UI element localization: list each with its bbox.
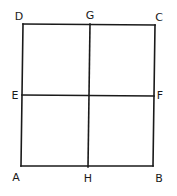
side-DC-line bbox=[23, 24, 155, 25]
midline-EF-line bbox=[22, 95, 154, 96]
point-label-c: C bbox=[155, 11, 163, 24]
point-label-f: F bbox=[157, 89, 163, 102]
point-label-d: D bbox=[15, 10, 23, 23]
point-label-b: B bbox=[155, 172, 163, 185]
point-label-a: A bbox=[12, 171, 20, 184]
point-label-g: G bbox=[86, 9, 95, 22]
segments-group bbox=[21, 24, 155, 167]
point-label-h: H bbox=[84, 172, 92, 185]
square-diagram: DGCEFAHB bbox=[0, 0, 177, 196]
point-label-e: E bbox=[12, 89, 19, 102]
